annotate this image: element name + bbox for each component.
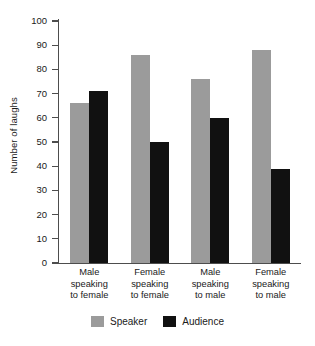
y-tick-label: 70: [7, 89, 47, 99]
bar-audience-0: [89, 91, 108, 263]
y-tick-label: 90: [7, 40, 47, 50]
chart-legend: SpeakerAudience: [0, 316, 315, 327]
category-label-line: to female: [59, 290, 120, 302]
bar-speaker-0: [70, 103, 89, 263]
y-tick-label: 40: [7, 161, 47, 171]
y-tick-label: 60: [7, 113, 47, 123]
y-tick-mark: [52, 214, 58, 215]
y-tick-mark: [52, 166, 58, 167]
y-tick-label: 50: [7, 137, 47, 147]
bar-audience-3: [271, 169, 290, 263]
y-tick-label: 0: [7, 258, 47, 268]
y-tick-label: 80: [7, 64, 47, 74]
x-axis-line: [58, 263, 301, 264]
y-tick-mark: [52, 238, 58, 239]
y-tick-label: 100: [7, 16, 47, 26]
y-tick-mark: [52, 190, 58, 191]
legend-label: Speaker: [110, 316, 147, 327]
category-label-line: to male: [180, 290, 241, 302]
bar-audience-2: [210, 118, 229, 263]
y-tick-mark: [52, 20, 58, 21]
category-label-line: speaking: [241, 279, 302, 291]
y-tick-mark: [52, 69, 58, 70]
bar-speaker-1: [131, 55, 150, 263]
bar-chart: Number of laughs 1009080706050403020100 …: [0, 0, 315, 346]
y-tick-mark: [52, 45, 58, 46]
legend-entry-audience[interactable]: Audience: [163, 316, 224, 327]
category-label-1: Femalespeakingto female: [120, 267, 181, 302]
legend-swatch-icon: [163, 316, 176, 327]
category-label-line: Female: [241, 267, 302, 279]
y-tick-mark: [52, 93, 58, 94]
bars-layer: [59, 21, 301, 263]
y-tick-mark: [52, 117, 58, 118]
bar-audience-1: [150, 142, 169, 263]
category-label-line: Female: [120, 267, 181, 279]
category-label-line: speaking: [59, 279, 120, 291]
category-label-3: Femalespeakingto male: [241, 267, 302, 302]
y-tick-label: 10: [7, 234, 47, 244]
bar-speaker-2: [191, 79, 210, 263]
category-label-line: Male: [59, 267, 120, 279]
y-tick-label: 30: [7, 185, 47, 195]
category-label-0: Malespeakingto female: [59, 267, 120, 302]
legend-label: Audience: [182, 316, 224, 327]
category-label-line: speaking: [120, 279, 181, 291]
legend-swatch-icon: [91, 316, 104, 327]
y-tick-mark: [52, 141, 58, 142]
category-label-line: to male: [241, 290, 302, 302]
category-label-line: Male: [180, 267, 241, 279]
bar-speaker-3: [252, 50, 271, 263]
category-label-2: Malespeakingto male: [180, 267, 241, 302]
category-label-line: speaking: [180, 279, 241, 291]
category-label-line: to female: [120, 290, 181, 302]
x-axis-category-labels: Malespeakingto femaleFemalespeakingto fe…: [59, 267, 301, 311]
y-tick-mark: [52, 262, 58, 263]
y-tick-label: 20: [7, 210, 47, 220]
legend-entry-speaker[interactable]: Speaker: [91, 316, 147, 327]
